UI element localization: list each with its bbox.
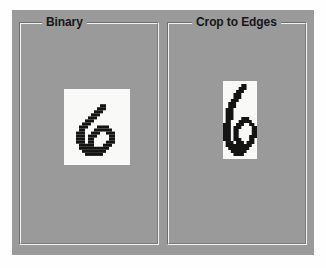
group-box-binary: Binary (19, 22, 159, 245)
application-window: Binary Crop to Edges (0, 0, 326, 268)
group-box-crop-to-edges: Crop to Edges (167, 22, 307, 245)
dialog-panel: Binary Crop to Edges (12, 10, 314, 255)
binary-digit-bitmap (64, 89, 130, 165)
group-box-crop-to-edges-title: Crop to Edges (192, 15, 281, 29)
binary-digit-image (64, 89, 130, 165)
cropped-digit-image (223, 81, 257, 159)
cropped-digit-bitmap (223, 81, 257, 159)
group-box-binary-title: Binary (42, 15, 87, 29)
